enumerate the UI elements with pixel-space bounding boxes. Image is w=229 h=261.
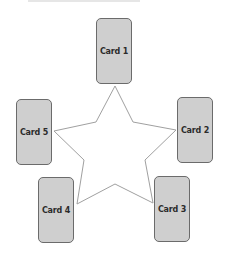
card-5[interactable]: Card 5 bbox=[16, 99, 52, 165]
card-label: Card 1 bbox=[100, 47, 128, 56]
card-2[interactable]: Card 2 bbox=[177, 97, 213, 163]
card-4[interactable]: Card 4 bbox=[38, 177, 74, 243]
card-label: Card 5 bbox=[20, 128, 48, 137]
card-1[interactable]: Card 1 bbox=[96, 18, 132, 84]
card-label: Card 3 bbox=[158, 205, 186, 214]
card-label: Card 4 bbox=[42, 206, 70, 215]
card-label: Card 2 bbox=[181, 126, 209, 135]
card-3[interactable]: Card 3 bbox=[154, 176, 190, 242]
